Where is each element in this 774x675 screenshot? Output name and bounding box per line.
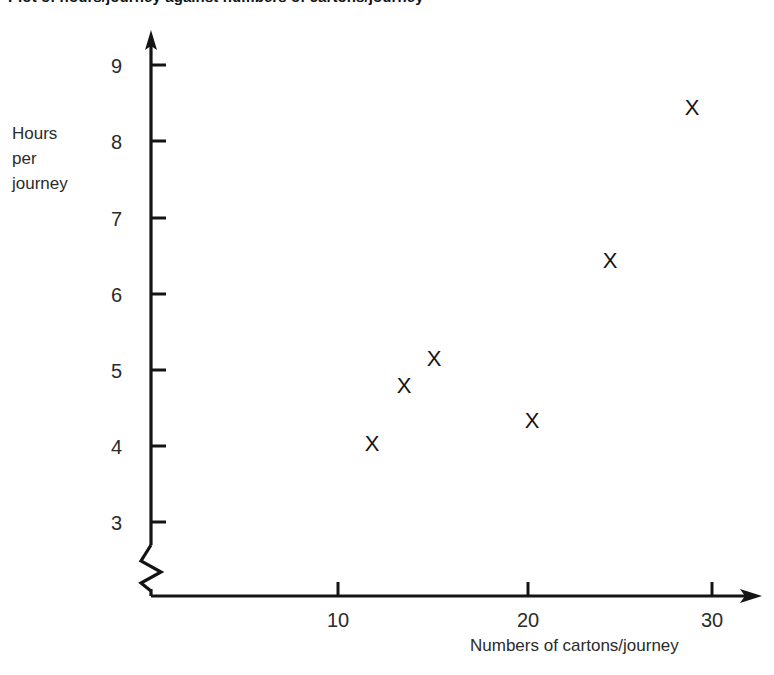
chart-page: Plot of hours/journey against numbers of… <box>0 0 774 675</box>
data-point-marker: X <box>525 410 540 432</box>
x-axis-ticks <box>338 582 712 596</box>
y-axis-break-zigzag <box>141 545 161 591</box>
scatter-plot-canvas <box>0 0 774 675</box>
data-point-marker: X <box>365 433 380 455</box>
x-axis-title: Numbers of cartons/journey <box>470 636 679 656</box>
data-point-marker: X <box>685 97 700 119</box>
y-tick-label: 9 <box>98 55 122 78</box>
y-axis-title-line: journey <box>12 171 68 196</box>
data-point-marker: X <box>427 348 442 370</box>
data-point-marker: X <box>603 250 618 272</box>
y-axis-ticks <box>151 65 166 522</box>
y-tick-label: 4 <box>98 436 122 459</box>
y-tick-label: 8 <box>98 131 122 154</box>
data-point-marker: X <box>397 375 412 397</box>
y-axis-title-line: Hours <box>12 121 68 146</box>
y-tick-label: 3 <box>98 512 122 535</box>
x-tick-label: 10 <box>327 609 349 632</box>
x-tick-label: 20 <box>517 609 539 632</box>
y-axis-title-line: per <box>12 146 68 171</box>
y-tick-label: 6 <box>98 284 122 307</box>
y-tick-label: 5 <box>98 360 122 383</box>
y-axis-title: Hours per journey <box>12 121 68 196</box>
y-tick-label: 7 <box>98 208 122 231</box>
x-tick-label: 30 <box>701 609 723 632</box>
